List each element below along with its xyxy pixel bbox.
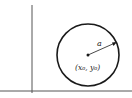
radius-label: a: [97, 39, 102, 48]
center-label: (x₀, y₀): [75, 63, 100, 72]
circle-diagram: a (x₀, y₀): [0, 0, 132, 98]
